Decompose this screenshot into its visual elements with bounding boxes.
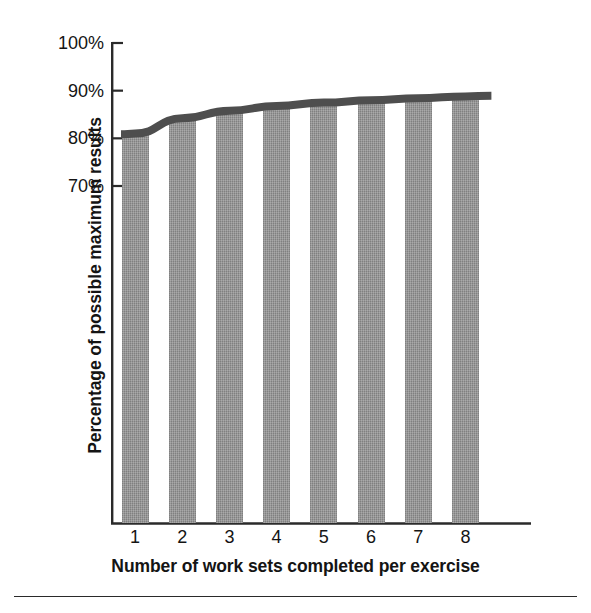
x-axis-tick-label: 5 [304,528,344,546]
trend-curve-path [121,96,491,135]
chart-figure: Percentage of possible maximum results 1… [0,0,591,613]
y-axis-tick-label: 80% [34,129,104,147]
plot-area [111,36,531,526]
x-axis-tick-label: 4 [257,528,297,546]
x-axis-tick-label: 6 [351,528,391,546]
y-axis-tick-labels: 100%90%80%70% [34,0,104,613]
x-axis-tick-label: 3 [209,528,249,546]
x-axis-tick-labels: 12345678 [111,528,531,556]
x-axis-tick-label: 2 [162,528,202,546]
x-axis-tick-label: 8 [445,528,485,546]
y-axis-tick-label: 70% [34,177,104,195]
y-axis-tick-label: 100% [34,34,104,52]
y-axis-tick-label: 90% [34,82,104,100]
x-axis-tick-label: 7 [398,528,438,546]
x-axis-title: Number of work sets completed per exerci… [0,556,591,577]
trend-curve [111,36,531,526]
bottom-divider [14,596,577,597]
x-axis-tick-label: 1 [115,528,155,546]
